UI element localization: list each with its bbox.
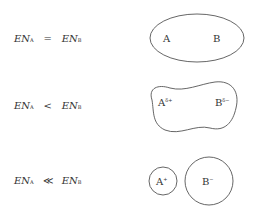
atom-b-label: B bbox=[213, 33, 220, 44]
atom-a-label: A bbox=[162, 33, 171, 44]
partial-negative-charge: δ− bbox=[222, 97, 229, 103]
ionic-bond-diagram: A+ B− bbox=[149, 157, 233, 205]
bonding-diagrams: A B Aδ+ Bδ− A+ B− bbox=[0, 0, 253, 218]
anion-label: B− bbox=[202, 176, 214, 187]
polar-bond-diagram: Aδ+ Bδ− bbox=[151, 82, 237, 132]
cation-label: A+ bbox=[155, 176, 167, 187]
atom-a-label: Aδ+ bbox=[157, 97, 172, 108]
partial-positive-charge: δ+ bbox=[165, 97, 172, 103]
nonpolar-bond-diagram: A B bbox=[150, 14, 244, 62]
atom-b-label: Bδ− bbox=[215, 97, 230, 108]
